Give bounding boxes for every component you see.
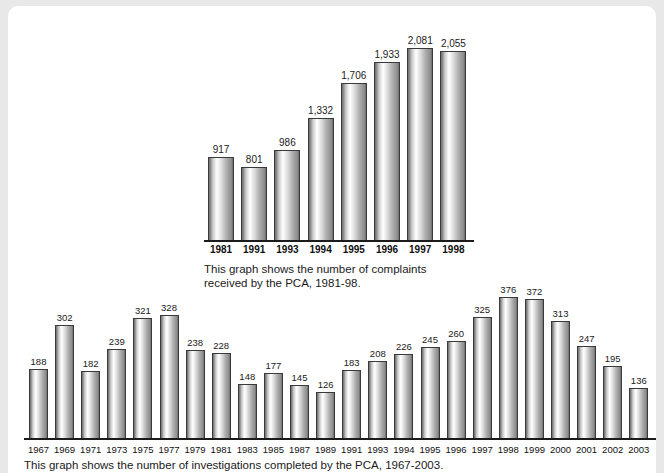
bar	[308, 118, 334, 242]
bar	[499, 297, 518, 440]
investigations-caption: This graph shows the number of investiga…	[24, 458, 644, 472]
bar-column: 183	[342, 357, 361, 440]
bar-column: 182	[81, 358, 100, 440]
bar-value-label: 321	[135, 305, 151, 316]
bar-value-label: 228	[213, 340, 229, 351]
bar	[133, 318, 152, 440]
bar-column: 148	[238, 371, 257, 440]
bar-value-label: 917	[213, 144, 230, 155]
bar-column: 1,706	[341, 70, 367, 242]
bar-value-label: 986	[279, 137, 296, 148]
bar	[342, 370, 361, 440]
bar	[447, 341, 466, 440]
bar-value-label: 801	[246, 154, 263, 165]
bar-value-label: 2,081	[408, 35, 433, 46]
bar	[577, 346, 596, 440]
bar	[241, 167, 267, 242]
bar	[603, 366, 622, 440]
bar	[374, 62, 400, 242]
bar-value-label: 376	[500, 284, 516, 295]
bar-value-label: 1,933	[374, 49, 399, 60]
bar-column: 2,081	[407, 35, 433, 242]
complaints-plot-area: 9178019861,3321,7061,9332,0812,055	[204, 24, 474, 242]
bar-value-label: 208	[370, 348, 386, 359]
bar	[341, 83, 367, 242]
bar-column: 302	[55, 312, 74, 440]
bar-column: 195	[603, 353, 622, 440]
bar-column: 328	[160, 302, 179, 440]
bar-column: 145	[290, 372, 309, 440]
bar-column: 372	[525, 286, 544, 440]
bar	[290, 385, 309, 440]
x-tick-label: 1993	[271, 244, 303, 255]
x-tick-label: 1994	[305, 244, 337, 255]
bar-value-label: 1,332	[308, 105, 333, 116]
x-tick-label: 1981	[205, 244, 237, 255]
bar-value-label: 245	[422, 334, 438, 345]
x-tick-label: 1991	[238, 244, 270, 255]
bar-value-label: 145	[292, 372, 308, 383]
bar	[274, 150, 300, 242]
bar	[238, 384, 257, 440]
bar	[316, 392, 335, 440]
bar-column: 376	[499, 284, 518, 440]
bar	[160, 315, 179, 440]
complaints-bar-chart: 9178019861,3321,7061,9332,0812,055	[204, 24, 474, 242]
bar-column: 228	[212, 340, 231, 440]
bar-column: 208	[368, 348, 387, 440]
bar-value-label: 302	[57, 312, 73, 323]
bar-column: 917	[208, 144, 234, 242]
bar	[407, 48, 433, 242]
bar	[208, 157, 234, 242]
bar-column: 226	[394, 341, 413, 440]
bar	[473, 317, 492, 441]
bar-column: 1,332	[308, 105, 334, 242]
bar	[186, 350, 205, 440]
page-surface: 9178019861,3321,7061,9332,0812,055 19811…	[8, 6, 656, 473]
bar-column: 1,933	[374, 49, 400, 242]
bar-column: 245	[421, 334, 440, 440]
bar	[264, 373, 283, 440]
bar	[212, 353, 231, 440]
bar	[421, 347, 440, 440]
bar	[107, 349, 126, 440]
bar-column: 325	[473, 304, 492, 441]
bar-column: 126	[316, 379, 335, 440]
bar-column: 247	[577, 333, 596, 440]
bar-value-label: 328	[161, 302, 177, 313]
bar-column: 238	[186, 337, 205, 440]
bar	[629, 388, 648, 440]
bar-column: 136	[629, 375, 648, 440]
x-tick-label: 2003	[623, 444, 655, 455]
investigations-bar-chart: 1883021822393213282382281481771451261832…	[24, 274, 656, 440]
bar-value-label: 325	[474, 304, 490, 315]
x-tick-label: 1998	[437, 244, 469, 255]
bar	[525, 299, 544, 440]
bar-column: 260	[447, 328, 466, 440]
bar-column: 801	[241, 154, 267, 242]
bar-value-label: 183	[344, 357, 360, 368]
x-tick-label: 1996	[371, 244, 403, 255]
bar-value-label: 247	[579, 333, 595, 344]
bar-value-label: 2,055	[441, 38, 466, 49]
bar-value-label: 126	[318, 379, 334, 390]
bar	[29, 369, 48, 440]
bar-value-label: 239	[109, 336, 125, 347]
x-tick-label: 1997	[404, 244, 436, 255]
bar-value-label: 238	[187, 337, 203, 348]
investigations-plot-area: 1883021822393213282382281481771451261832…	[24, 274, 656, 440]
bar	[551, 321, 570, 440]
bar-column: 177	[264, 360, 283, 440]
bar-value-label: 188	[31, 356, 47, 367]
bar	[368, 361, 387, 440]
bar-column: 321	[133, 305, 152, 440]
bar-column: 313	[551, 308, 570, 440]
bar-value-label: 313	[553, 308, 569, 319]
bar	[394, 354, 413, 440]
bar-value-label: 226	[396, 341, 412, 352]
bar-value-label: 260	[448, 328, 464, 339]
bar-column: 2,055	[440, 38, 466, 242]
x-tick-label: 1995	[338, 244, 370, 255]
bar-value-label: 148	[239, 371, 255, 382]
bar	[81, 371, 100, 440]
